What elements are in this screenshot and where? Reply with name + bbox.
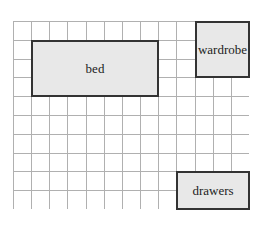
wardrobe-label: wardrobe bbox=[198, 42, 247, 58]
wardrobe: wardrobe bbox=[195, 21, 250, 78]
bed: bed bbox=[31, 40, 159, 97]
drawers-label: drawers bbox=[192, 183, 233, 199]
drawers: drawers bbox=[176, 171, 250, 210]
floor-plan: bed wardrobe drawers bbox=[13, 21, 249, 209]
bed-label: bed bbox=[86, 61, 105, 77]
